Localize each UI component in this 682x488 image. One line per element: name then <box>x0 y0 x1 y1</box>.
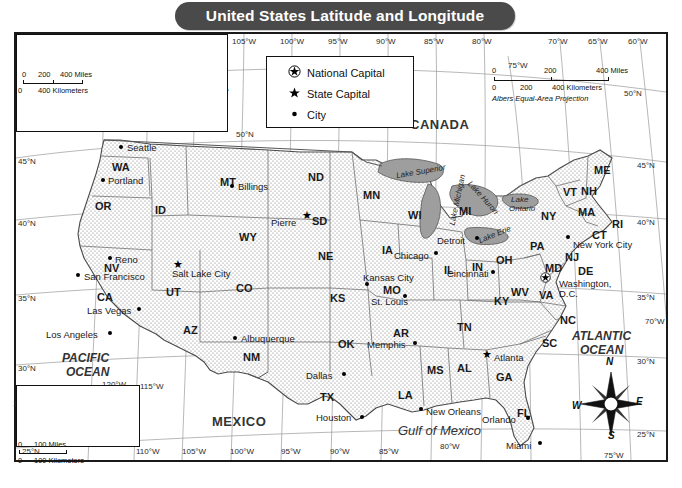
city-label-washington-d-c: Washington, D.C. <box>559 279 619 299</box>
ak-scale-miles-0: 0 <box>22 70 26 79</box>
national-capital-icon <box>281 65 307 80</box>
city-label-new-orleans: New Orleans <box>426 407 481 417</box>
country-label-canada-0: CANADA <box>410 118 469 131</box>
city-label-pierre: Pierre <box>271 218 296 228</box>
ak-scale-miles-200: 200 <box>38 70 51 79</box>
city-label-kansas-city: Kansas City <box>363 273 414 283</box>
city-label-miami: Miami <box>506 441 531 451</box>
state-label-la: LA <box>398 390 413 401</box>
map-canvas: United States Latitude and Longitude Nat… <box>0 0 682 488</box>
city-label-portland: Portland <box>108 176 143 186</box>
state-label-nj: NJ <box>565 252 579 263</box>
state-label-oh: OH <box>496 255 513 266</box>
graticule-right-lat-3: 30°N <box>637 358 655 366</box>
state-label-ms: MS <box>427 365 444 376</box>
graticule-top-lon-7: 70°W <box>548 38 568 46</box>
city-label-st-louis: St. Louis <box>371 297 408 307</box>
scale-km-400: 400 Kilometers <box>552 83 602 92</box>
state-label-ri: RI <box>612 219 623 230</box>
state-label-ky: KY <box>494 296 509 307</box>
ocean-label-ocean-1: OCEAN <box>66 366 109 378</box>
ak-scale-km-0: 0 <box>18 86 22 95</box>
scale-miles-0: 0 <box>492 66 496 75</box>
state-label-va: VA <box>539 290 553 301</box>
state-label-wi: WI <box>408 210 421 221</box>
city-label-salt-lake-city: Salt Lake City <box>172 269 231 279</box>
city-marker-las-vegas <box>137 307 141 311</box>
state-label-me: ME <box>594 165 611 176</box>
state-label-co: CO <box>236 283 253 294</box>
city-marker-houston <box>360 415 364 419</box>
city-label-cincinnati: Cincinnati <box>447 269 489 279</box>
ak-scale-miles-400: 400 Miles <box>60 70 92 79</box>
state-capital-marker-salt-lake-city: ★ <box>173 260 183 268</box>
graticule-top-lon-2: 100°W <box>280 38 304 46</box>
state-label-de: DE <box>578 266 593 277</box>
graticule-bottom-lon-4: 90°W <box>330 448 350 456</box>
ocean-label-atlantic-2: ATLANTIC <box>572 330 631 342</box>
city-label-new-york-city: New York City <box>573 240 632 250</box>
city-label-detroit: Detroit <box>437 236 465 246</box>
state-label-nd: ND <box>308 172 324 183</box>
legend-label-city: City <box>307 109 326 121</box>
state-capital-marker-pierre: ★ <box>302 211 312 219</box>
graticule-top-lon-6: 80°W <box>472 38 492 46</box>
graticule-right-lat-0: 45°N <box>637 162 655 170</box>
city-label-albuquerque: Albuquerque <box>241 334 295 344</box>
graticule-right-extra-0: 70°W <box>645 318 665 326</box>
state-label-wa: WA <box>112 162 130 173</box>
graticule-bottom-extra-1: 115°W <box>140 383 164 391</box>
legend-label-state-capital: State Capital <box>307 88 370 100</box>
national-capital-marker-washington-d-c <box>540 269 551 280</box>
city-label-memphis: Memphis <box>367 340 406 350</box>
scale-miles-400: 400 Miles <box>596 66 628 75</box>
city-label-san-francisco: San Francisco <box>84 272 145 282</box>
state-label-nm: NM <box>243 352 260 363</box>
hi-scale-miles-0: 0 <box>18 440 22 449</box>
state-label-sd: SD <box>312 216 327 227</box>
lake-label-ontario-5: Ontario <box>509 205 535 213</box>
state-label-wy: WY <box>239 232 257 243</box>
legend-item-state-capital: State Capital <box>267 83 413 104</box>
map-title: United States Latitude and Longitude <box>206 7 484 25</box>
ocean-label-pacific-0: PACIFIC <box>62 352 109 364</box>
graticule-right-lat-1: 40°N <box>637 219 655 227</box>
state-label-ok: OK <box>338 339 355 350</box>
city-marker-seattle <box>119 145 123 149</box>
graticule-left-lower-0: 50°N <box>236 131 254 139</box>
city-label-atlanta: Atlanta <box>494 353 524 363</box>
graticule-bottom-lon-3: 95°W <box>281 448 301 456</box>
compass-rose: N E S W <box>576 366 646 444</box>
city-label-chicago: Chicago <box>394 251 429 261</box>
city-marker-los-angeles <box>108 331 112 335</box>
city-label-las-vegas: Las Vegas <box>87 306 131 316</box>
graticule-bottom-lon-5: 85°W <box>379 448 399 456</box>
state-label-vt: VT <box>563 187 577 198</box>
city-label-seattle: Seattle <box>127 143 157 153</box>
city-marker-new-york-city <box>566 235 570 239</box>
state-label-sc: SC <box>542 338 557 349</box>
state-label-nh: NH <box>581 186 597 197</box>
graticule-upper-extra-1: 50°N <box>624 90 642 98</box>
state-label-ks: KS <box>330 293 345 304</box>
city-marker-memphis <box>413 341 417 345</box>
state-label-ia: IA <box>382 245 393 256</box>
graticule-top-lon-3: 95°W <box>328 38 348 46</box>
graticule-right-lat-2: 35°N <box>637 294 655 302</box>
state-label-ne: NE <box>318 251 333 262</box>
city-marker-billings <box>230 184 234 188</box>
graticule-bottom-lon-1: 105°W <box>182 448 206 456</box>
city-dot-icon <box>281 107 307 122</box>
city-marker-chicago <box>434 251 438 255</box>
state-label-ny: NY <box>541 211 556 222</box>
graticule-top-lon-4: 90°W <box>376 38 396 46</box>
city-marker-reno <box>108 256 112 260</box>
graticule-bottom-lon-2: 100°W <box>230 448 254 456</box>
graticule-top-lon-9: 60°W <box>628 38 648 46</box>
state-label-ga: GA <box>496 372 513 383</box>
scale-km-200: 200 <box>520 83 533 92</box>
city-marker-san-francisco <box>76 273 80 277</box>
state-label-id: ID <box>155 205 166 216</box>
state-label-az: AZ <box>183 325 198 336</box>
state-label-ut: UT <box>166 287 181 298</box>
